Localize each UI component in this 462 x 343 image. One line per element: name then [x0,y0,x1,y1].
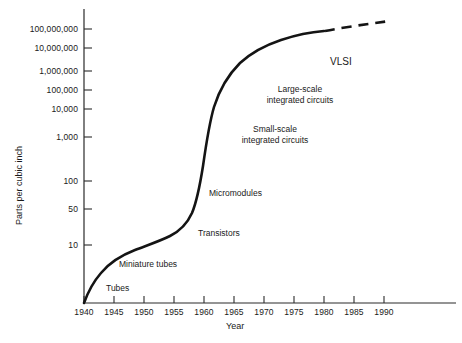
y-tick-label: 1,000,000 [0,66,78,76]
x-tick-label: 1955 [164,307,183,317]
x-tick-label: 1960 [194,307,213,317]
x-tick-label: 1945 [104,307,123,317]
chart-figure: Parts per cubic inch Year 100,000,000 10… [0,0,462,343]
annotation-vlsi: VLSI [330,56,352,67]
annotation-tubes: Tubes [106,283,129,294]
y-tick-label: 10,000 [0,104,78,114]
data-curve-dashed-projection [325,21,390,31]
annotation-small-scale-integrated-circuits: Small-scale integrated circuits [242,124,309,146]
x-tick-label: 1970 [254,307,273,317]
annotation-small-scale-line-2: integrated circuits [242,135,309,146]
annotation-micromodules: Micromodules [209,188,262,199]
x-tick-label: 1950 [134,307,153,317]
y-tick-label: 100,000 [0,85,78,95]
y-axis-ticks [84,29,92,245]
y-tick-label: 1,000 [0,132,78,142]
x-tick-label: 1985 [344,307,363,317]
x-tick-label: 1980 [314,307,333,317]
annotation-miniature-tubes: Miniature tubes [119,259,177,270]
x-tick-label: 1940 [74,307,93,317]
y-tick-label: 50 [0,204,78,214]
y-tick-label: 100 [0,176,78,186]
x-axis-ticks [84,296,384,303]
x-tick-label: 1990 [374,307,393,317]
annotation-large-scale-line-1: Large-scale [267,84,334,95]
x-tick-label: 1975 [284,307,303,317]
y-tick-label: 10,000,000 [0,43,78,53]
y-tick-label: 10 [0,240,78,250]
annotation-transistors: Transistors [198,228,240,239]
y-tick-label: 100,000,000 [0,24,78,34]
annotation-large-scale-integrated-circuits: Large-scale integrated circuits [267,84,334,106]
x-axis-title: Year [226,321,244,331]
annotation-large-scale-line-2: integrated circuits [267,95,334,106]
annotation-small-scale-line-1: Small-scale [242,124,309,135]
x-tick-label: 1965 [224,307,243,317]
